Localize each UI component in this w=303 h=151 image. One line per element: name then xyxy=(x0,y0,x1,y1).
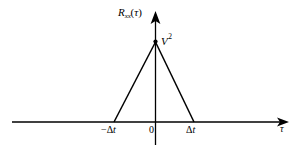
peak-value-label: V2 xyxy=(161,34,171,47)
peak-marker xyxy=(153,39,157,43)
t-symbol-right: t xyxy=(192,124,195,135)
triangle-falling-limb xyxy=(156,42,195,122)
x-axis-label: τ xyxy=(280,124,284,134)
y-axis-label-close-paren: ) xyxy=(138,6,142,18)
peak-value-base: V xyxy=(161,35,168,47)
y-axis-label: Rxx(τ) xyxy=(118,7,142,18)
x-tick-label-negative-delta-t: −Δt xyxy=(101,125,116,135)
y-axis-label-base: R xyxy=(118,6,125,18)
triangle-rising-limb xyxy=(114,42,156,122)
x-tick-label-zero: 0 xyxy=(149,125,154,135)
autocorrelation-figure: Rxx(τ) V2 −Δt 0 Δt τ xyxy=(0,0,303,151)
peak-value-exponent: 2 xyxy=(168,32,172,41)
y-axis-label-subscript: xx xyxy=(125,12,131,20)
x-tick-label-positive-delta-t: Δt xyxy=(186,125,195,135)
t-symbol-left: t xyxy=(113,124,116,135)
